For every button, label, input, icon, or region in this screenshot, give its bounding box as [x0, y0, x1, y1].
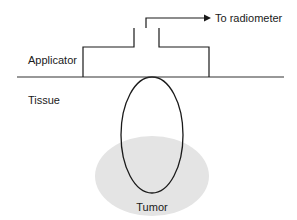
applicator-radiometry-diagram: To radiometer Applicator Tissue Tumor — [0, 0, 297, 220]
arrow-right-icon — [204, 15, 211, 22]
tumor-label: Tumor — [136, 201, 168, 213]
tissue-label: Tissue — [28, 94, 60, 106]
radiometer-connection-line — [146, 18, 205, 28]
applicator-label: Applicator — [28, 54, 77, 66]
applicator-outline-right — [159, 28, 209, 77]
applicator-outline — [83, 28, 134, 77]
radiometer-label: To radiometer — [215, 12, 283, 24]
